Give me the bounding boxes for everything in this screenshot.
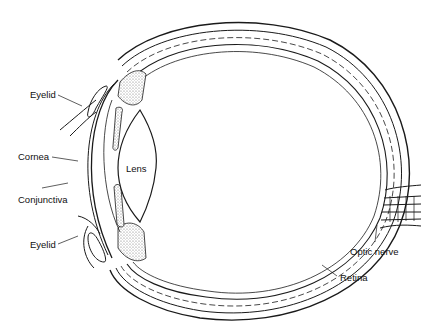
ciliary-body-lower — [118, 223, 146, 261]
eye-illustration — [0, 0, 421, 336]
label-cornea: Cornea — [18, 151, 49, 162]
label-retina: Retina — [340, 272, 367, 283]
ciliary-body-upper — [118, 71, 146, 105]
iris-upper — [113, 107, 123, 150]
cornea-shape — [88, 80, 120, 258]
label-eyelid-upper: Eyelid — [30, 89, 56, 100]
label-eyelid-lower: Eyelid — [30, 239, 56, 250]
label-optic-nerve: Optic nerve — [350, 246, 399, 257]
label-lens: Lens — [126, 163, 147, 174]
label-conjunctiva: Conjunctiva — [18, 194, 68, 205]
eye-diagram: Eyelid Cornea Conjunctiva Eyelid Lens Op… — [0, 0, 421, 336]
